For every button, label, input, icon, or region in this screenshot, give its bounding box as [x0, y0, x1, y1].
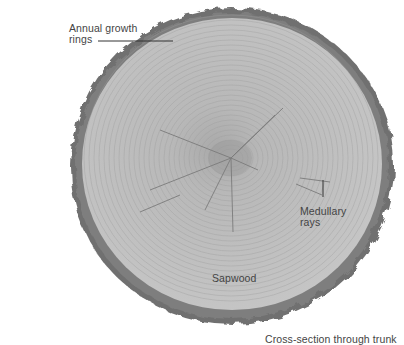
- medullary-rays-label: Medullary rays: [300, 206, 346, 228]
- sapwood-label: Sapwood: [212, 273, 256, 284]
- medullary-label-line2: rays: [300, 217, 346, 228]
- diagram-caption: Cross-section through trunk: [265, 334, 397, 345]
- annual-growth-rings-label: Annual growth rings: [69, 23, 137, 45]
- annual-rings-label-line2: rings: [69, 34, 137, 45]
